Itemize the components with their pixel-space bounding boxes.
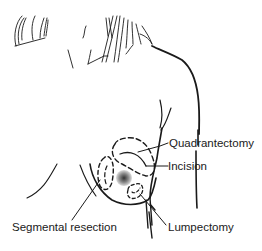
- figure-illustration: [0, 0, 262, 251]
- shoulder-outline: [152, 46, 199, 134]
- segmental-inner: [105, 166, 107, 186]
- leader-quadrantectomy: [138, 143, 168, 152]
- chest-left-2: [80, 165, 96, 196]
- lumpectomy-inner: [132, 188, 140, 193]
- breast-surgery-diagram: Quadrantectomy Incision Segmental resect…: [0, 0, 262, 251]
- armpit-crease: [160, 100, 171, 130]
- hair-left: [15, 16, 48, 46]
- chest-left: [27, 164, 57, 198]
- leader-lumpectomy: [140, 194, 166, 225]
- hair-right: [88, 16, 152, 64]
- lumpectomy-outline: [127, 184, 142, 199]
- nipple: [116, 170, 132, 186]
- label-lumpectomy: Lumpectomy: [168, 222, 234, 234]
- segmental-outline: [98, 157, 113, 190]
- face-marks: [68, 26, 91, 68]
- label-incision: Incision: [168, 161, 207, 173]
- label-segmental-resection: Segmental resection: [12, 222, 117, 234]
- quadrantectomy-outline: [112, 138, 154, 176]
- incision-line: [120, 153, 146, 167]
- label-quadrantectomy: Quadrantectomy: [169, 138, 254, 150]
- leader-segmental: [72, 180, 100, 220]
- torso-side: [150, 128, 162, 198]
- lower-lines: [146, 198, 155, 238]
